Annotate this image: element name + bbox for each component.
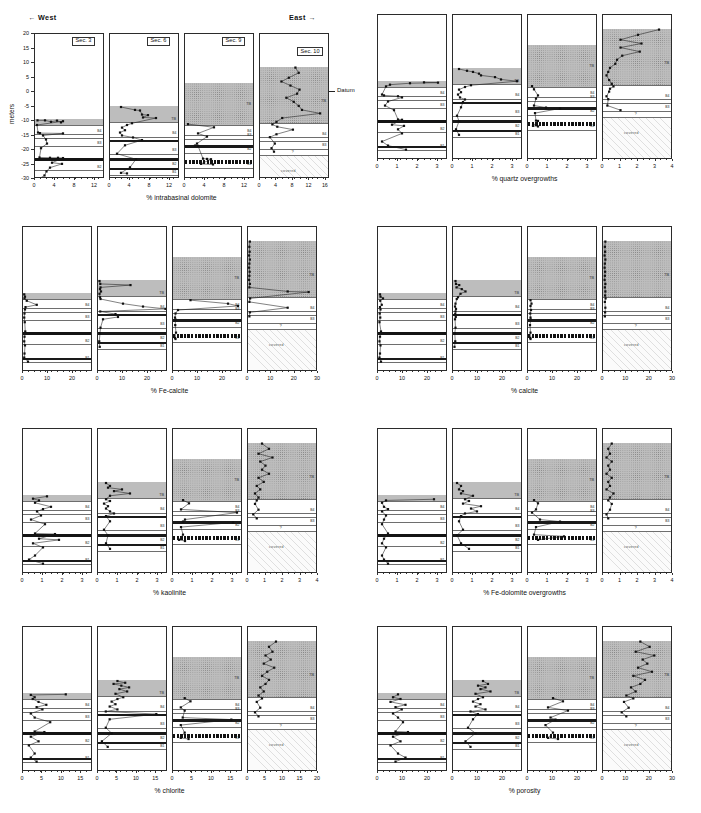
x-minor-tick	[80, 573, 81, 574]
x-minor-tick	[389, 771, 390, 772]
x-minor-tick	[230, 371, 231, 372]
x-minor-tick	[231, 178, 232, 179]
x-minor-tick	[207, 573, 208, 574]
x-tick-mark	[192, 573, 193, 575]
x-tick-label: 2	[558, 163, 576, 169]
x-tick-mark	[259, 178, 260, 180]
x-minor-tick	[430, 159, 431, 160]
x-minor-tick	[311, 771, 312, 772]
x-minor-tick	[562, 771, 563, 772]
x-minor-tick	[550, 573, 551, 574]
x-tick-label: 0	[443, 163, 461, 169]
x-tick-label: 1	[538, 163, 556, 169]
x-minor-tick	[383, 371, 384, 372]
x-minor-tick	[539, 771, 540, 772]
x-minor-tick	[430, 371, 431, 372]
x-tick-mark	[47, 371, 48, 373]
data-series-polyline	[378, 227, 447, 371]
x-minor-tick	[248, 178, 249, 179]
x-tick-mark	[22, 573, 23, 575]
x-tick-mark	[34, 178, 35, 180]
x-tick-mark	[222, 371, 223, 373]
x-tick-label: 0	[368, 163, 386, 169]
data-series-polyline	[528, 627, 597, 771]
x-minor-tick	[138, 573, 139, 574]
x-minor-tick	[46, 178, 47, 179]
x-tick-label: 20	[138, 375, 156, 381]
x-minor-tick	[311, 573, 312, 574]
x-tick-label: 0	[88, 775, 106, 781]
x-tick-mark	[402, 371, 403, 373]
x-minor-tick	[306, 178, 307, 179]
x-minor-tick	[412, 159, 413, 160]
x-minor-tick	[178, 771, 179, 772]
data-series-polyline	[378, 627, 447, 771]
x-minor-tick	[412, 573, 413, 574]
chart-block-5: B4B3B2B10123TBB4B3B2B10123TBB4B3B2B10123…	[355, 414, 701, 610]
data-series-polyline	[528, 429, 597, 573]
x-minor-tick	[655, 573, 656, 574]
x-tick-label: 20	[493, 375, 511, 381]
x-tick-label: 0	[250, 182, 268, 188]
x-minor-tick	[28, 573, 29, 574]
x-minor-tick	[400, 771, 401, 772]
x-minor-tick	[63, 371, 64, 372]
x-axis-title: % kaolinite	[22, 589, 317, 596]
x-minor-tick	[190, 178, 191, 179]
x-minor-tick	[155, 371, 156, 372]
panel-section-2: TBB4B3B2B1	[97, 428, 167, 573]
x-minor-tick	[184, 573, 185, 574]
x-minor-tick	[207, 371, 208, 372]
x-minor-tick	[126, 771, 127, 772]
x-minor-tick	[45, 573, 46, 574]
x-minor-tick	[556, 573, 557, 574]
x-tick-label: 1	[33, 577, 51, 583]
x-tick-label: 20	[308, 775, 326, 781]
x-minor-tick	[63, 771, 64, 772]
x-minor-tick	[115, 178, 116, 179]
x-minor-tick	[406, 159, 407, 160]
x-minor-tick	[637, 159, 638, 160]
x-minor-tick	[539, 371, 540, 372]
x-minor-tick	[614, 573, 615, 574]
x-minor-tick	[196, 178, 197, 179]
x-minor-tick	[323, 178, 324, 179]
x-minor-tick	[533, 771, 534, 772]
x-tick-mark	[672, 159, 673, 161]
x-tick-label: 0	[13, 577, 31, 583]
y-tick-label: 15	[12, 45, 29, 51]
x-minor-tick	[28, 371, 29, 372]
x-minor-tick	[475, 371, 476, 372]
x-tick-mark	[402, 771, 403, 773]
data-series-polyline	[98, 227, 167, 371]
x-minor-tick	[144, 771, 145, 772]
panel-section-3: TBB4B3B2B1	[527, 428, 597, 573]
x-minor-tick	[505, 573, 506, 574]
x-minor-tick	[499, 771, 500, 772]
x-minor-tick	[516, 159, 517, 160]
x-minor-tick	[458, 371, 459, 372]
x-minor-tick	[138, 771, 139, 772]
x-tick-mark	[109, 178, 110, 180]
x-tick-mark	[72, 371, 73, 373]
x-tick-mark	[41, 771, 42, 773]
data-series-polyline	[453, 15, 522, 159]
x-tick-label: 2	[628, 577, 646, 583]
x-minor-tick	[631, 159, 632, 160]
x-minor-tick	[533, 573, 534, 574]
x-tick-label: 0	[25, 182, 43, 188]
panel-section-3: TBB4B3B2B1	[527, 226, 597, 371]
x-minor-tick	[400, 159, 401, 160]
x-tick-label: 2	[128, 577, 146, 583]
y-tick-label: 20	[12, 30, 29, 36]
x-axis-title: % quartz overgrowths	[377, 175, 672, 182]
x-minor-tick	[115, 573, 116, 574]
x-tick-mark	[437, 573, 438, 575]
x-minor-tick	[481, 371, 482, 372]
x-minor-tick	[253, 573, 254, 574]
x-minor-tick	[51, 371, 52, 372]
x-minor-tick	[195, 371, 196, 372]
x-tick-label: 3	[646, 577, 664, 583]
x-minor-tick	[470, 771, 471, 772]
x-minor-tick	[585, 159, 586, 160]
